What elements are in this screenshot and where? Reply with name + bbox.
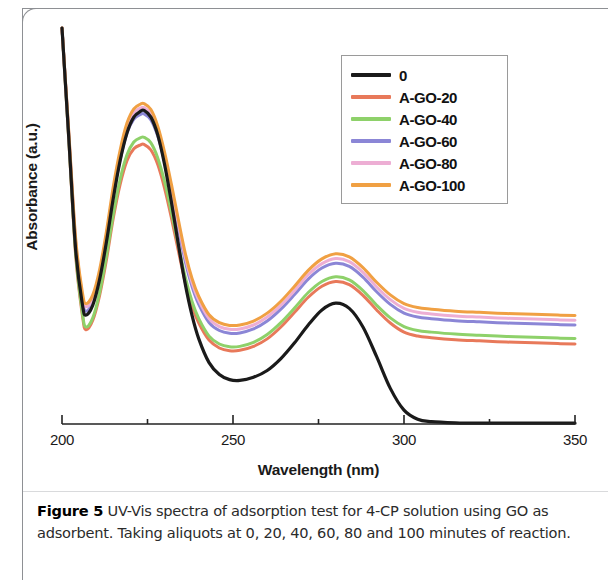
legend-item: A-GO-20: [342, 86, 507, 108]
legend-color-swatch: [351, 183, 391, 186]
x-axis-title: Wavelength (nm): [62, 461, 575, 479]
x-tick-label: 350: [545, 431, 605, 448]
x-tick-label: 250: [203, 431, 263, 448]
legend-color-swatch: [351, 161, 391, 164]
x-tick-label: 200: [32, 431, 92, 448]
legend-label: A-GO-100: [399, 177, 465, 194]
legend-item: 0: [342, 64, 507, 86]
legend-color-swatch: [351, 73, 391, 76]
x-tick-label: 300: [374, 431, 434, 448]
spectra-svg: [0, 0, 608, 487]
legend-label: A-GO-60: [399, 133, 457, 150]
legend-label: A-GO-20: [399, 89, 457, 106]
legend-label: A-GO-40: [399, 111, 457, 128]
legend-color-swatch: [351, 117, 391, 120]
legend-item: A-GO-40: [342, 108, 507, 130]
legend-item: A-GO-100: [342, 174, 507, 196]
legend-label: A-GO-80: [399, 155, 457, 172]
figure-caption: Figure 5 UV-Vis spectra of adsorption te…: [37, 500, 593, 544]
legend-color-swatch: [351, 139, 391, 142]
y-axis-title: Absorbance (a.u.): [23, 97, 41, 277]
legend-item: A-GO-60: [342, 130, 507, 152]
legend-item: A-GO-80: [342, 152, 507, 174]
chart-legend: 0A-GO-20A-GO-40A-GO-60A-GO-80A-GO-100: [341, 55, 508, 204]
figure-caption-label: Figure 5: [37, 502, 103, 519]
legend-label: 0: [399, 67, 407, 84]
caption-separator: [23, 491, 608, 492]
chart-plot-area: Absorbance (a.u.) Wavelength (nm) 200250…: [0, 0, 608, 487]
legend-color-swatch: [351, 95, 391, 98]
figure-caption-text: UV-Vis spectra of adsorption test for 4-…: [37, 502, 571, 541]
